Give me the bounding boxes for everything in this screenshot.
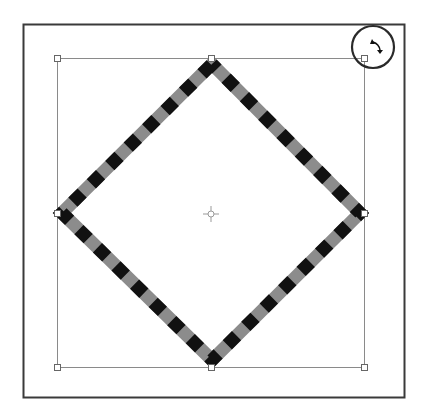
artboard-frame xyxy=(24,25,405,398)
highlight-circle xyxy=(352,26,394,68)
handle-left[interactable] xyxy=(55,211,61,217)
center-point-icon xyxy=(203,206,219,222)
diamond-shape[interactable] xyxy=(62,64,360,360)
handle-bottom-right[interactable] xyxy=(362,365,368,371)
rotate-cursor-icon xyxy=(370,39,383,54)
handle-bottom[interactable] xyxy=(209,365,215,371)
canvas xyxy=(0,0,430,408)
handle-right[interactable] xyxy=(362,211,368,217)
handle-top[interactable] xyxy=(209,56,215,62)
transform-handles[interactable] xyxy=(55,56,368,371)
bounding-box xyxy=(58,59,365,368)
handle-top-left[interactable] xyxy=(55,56,61,62)
handle-top-right[interactable] xyxy=(362,56,368,62)
handle-bottom-left[interactable] xyxy=(55,365,61,371)
